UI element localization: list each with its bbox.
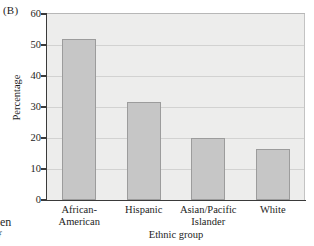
x-axis-category-label: Hispanic (112, 204, 177, 216)
page-bleed-text-line2: f (0, 230, 1, 241)
page-bleed-text-line1: nen (0, 216, 11, 229)
y-tick-mark (41, 75, 47, 76)
bar (62, 39, 96, 200)
y-tick-mark (41, 199, 47, 200)
y-tick-label: 60 (3, 9, 41, 19)
y-tick-label: 10 (3, 164, 41, 174)
y-tick-mark (41, 137, 47, 138)
y-tick-mark (41, 106, 47, 107)
x-axis-line (46, 200, 306, 201)
y-axis-ticks: 0102030405060 (0, 0, 41, 246)
y-tick-label: 50 (3, 40, 41, 50)
y-tick-label: 20 (3, 133, 41, 143)
x-axis-category-label: Asian/Pacific Islander (176, 204, 241, 227)
plot-area (47, 14, 305, 200)
bar-chart-figure: (B) Percentage 0102030405060 African-Ame… (0, 0, 314, 246)
plot-frame-right (304, 14, 305, 200)
bar (256, 149, 290, 200)
x-axis-title: Ethnic group (47, 229, 305, 240)
bar (191, 138, 225, 200)
y-tick-mark (41, 44, 47, 45)
y-tick-label: 0 (3, 195, 41, 205)
x-axis-category-label: African-American (47, 204, 112, 227)
y-tick-label: 40 (3, 71, 41, 81)
y-tick-mark (41, 13, 47, 14)
bar (127, 102, 161, 200)
y-tick-mark (41, 168, 47, 169)
y-tick-label: 30 (3, 102, 41, 112)
plot-frame-top (47, 13, 305, 14)
x-axis-category-label: White (241, 204, 306, 216)
